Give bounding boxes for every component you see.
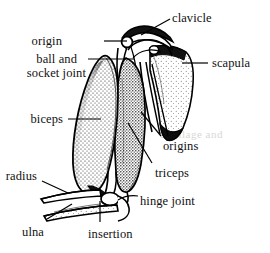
label-clavicle: clavicle	[172, 12, 212, 26]
label-biceps: biceps	[0, 113, 63, 127]
radius-bone	[41, 190, 101, 203]
leader-radius	[42, 181, 68, 193]
label-socket-joint: socket joint	[0, 67, 86, 81]
scapula-bone	[150, 46, 193, 141]
label-scapula: scapula	[212, 57, 250, 71]
label-origin: origin	[0, 35, 62, 49]
label-hinge-joint: hinge joint	[140, 195, 195, 209]
ulna-bone	[44, 204, 118, 221]
label-ulna: ulna	[0, 226, 44, 240]
label-origins: origins	[163, 140, 198, 154]
label-radius: radius	[0, 170, 37, 184]
label-insertion: insertion	[88, 228, 133, 242]
label-ball-and: ball and	[0, 53, 77, 67]
triceps-muscle	[115, 58, 145, 192]
anatomy-diagram: cartilage and	[0, 0, 270, 253]
label-triceps: triceps	[155, 167, 189, 181]
